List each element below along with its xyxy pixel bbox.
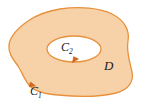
label-inner-curve: C2	[61, 41, 73, 53]
figure-container: C2 C1 D	[0, 0, 143, 106]
label-region: D	[104, 59, 113, 72]
label-outer-curve: C1	[30, 85, 42, 97]
label-outer-curve-subscript: 1	[38, 91, 42, 100]
label-inner-curve-letter: C	[61, 40, 69, 54]
label-outer-curve-letter: C	[30, 84, 38, 98]
label-inner-curve-subscript: 2	[69, 47, 73, 56]
